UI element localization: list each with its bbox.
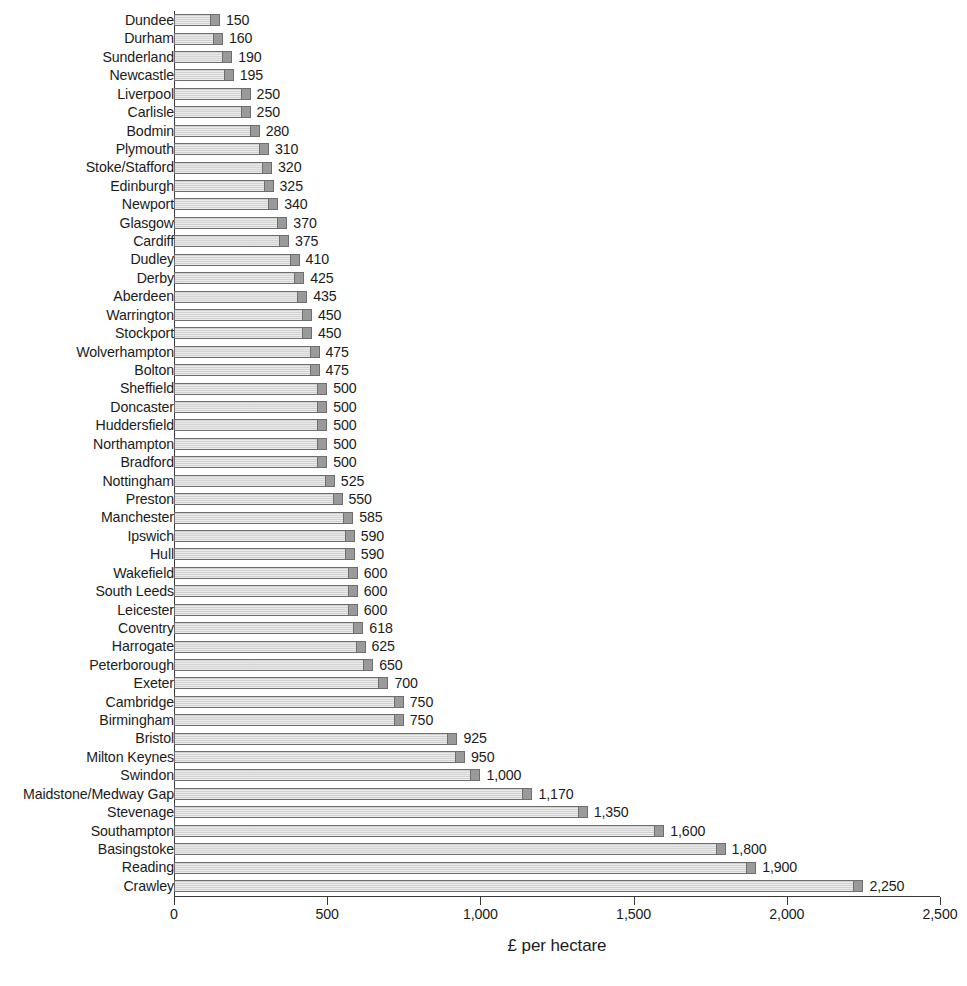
bar-row: Coventry618 [0,619,967,637]
bar [174,180,274,192]
bar [174,677,388,689]
x-axis-tick [634,897,635,905]
bar-track [174,493,343,505]
bar-row: Carlisle250 [0,103,967,121]
bar-end-cap [241,89,250,99]
bar-track [174,604,358,616]
category-label: Warrington [106,306,174,324]
bar-value-label: 1,350 [594,803,629,821]
category-label: Huddersfield [96,416,174,434]
bar-value-label: 590 [361,527,384,545]
bar-row: Derby425 [0,269,967,287]
bar-value-label: 410 [306,250,329,268]
bar-value-label: 320 [278,158,301,176]
bar-row: Nottingham525 [0,472,967,490]
bar-value-label: 1,900 [762,858,797,876]
bar-end-cap [716,844,725,854]
x-axis-tick [480,897,481,905]
bar-track [174,880,863,892]
bar-rows: Dundee150Durham160Sunderland190Newcastle… [0,11,967,895]
category-label: Dudley [130,250,174,268]
bar [174,198,278,210]
bar-row: Bodmin280 [0,122,967,140]
bar-track [174,14,220,26]
bar-value-label: 500 [333,398,356,416]
category-label: Newcastle [109,66,174,84]
bar [174,512,353,524]
bar-end-cap [259,144,268,154]
category-label: Harrogate [112,637,174,655]
category-label: Cambridge [106,693,175,711]
bar-value-label: 195 [240,66,263,84]
bar-value-label: 600 [364,601,387,619]
bar-row: Southampton1,600 [0,822,967,840]
category-label: Preston [126,490,174,508]
bar-end-cap [277,218,286,228]
bar-value-label: 310 [275,140,298,158]
bar-row: Hull590 [0,545,967,563]
bar [174,383,327,395]
bar [174,33,223,45]
bar [174,751,465,763]
bar-end-cap [268,199,277,209]
bar [174,401,327,413]
bar [174,327,312,339]
bar-row: Reading1,900 [0,858,967,876]
category-label: Leicester [117,601,174,619]
bar-track [174,69,234,81]
bar-row: Stockport450 [0,324,967,342]
bar-end-cap [222,52,231,62]
bar-row: Newcastle195 [0,66,967,84]
bar-value-label: 500 [333,416,356,434]
bar-end-cap [325,476,334,486]
bar-end-cap [345,531,354,541]
bar-end-cap [455,752,464,762]
x-axis-title: £ per hectare [174,936,940,956]
category-label: Southampton [91,822,174,840]
bar [174,585,358,597]
bar-track [174,512,353,524]
bar-end-cap [250,126,259,136]
bar-end-cap [353,623,362,633]
category-label: Bradford [120,453,174,471]
bar-end-cap [241,107,250,117]
category-label: Stevenage [107,803,174,821]
bar-value-label: 700 [394,674,417,692]
bar-value-label: 1,000 [486,766,521,784]
bar [174,143,269,155]
bar-track [174,567,358,579]
bar [174,14,220,26]
bar-end-cap [302,310,311,320]
bar-track [174,383,327,395]
x-axis-tick [787,897,788,905]
bar-row: Aberdeen435 [0,287,967,305]
bar [174,51,232,63]
bar-end-cap [279,236,288,246]
category-label: Edinburgh [110,177,174,195]
bar-end-cap [343,513,352,523]
bar-row: Harrogate625 [0,637,967,655]
bar-end-cap [378,678,387,688]
bar-end-cap [317,384,326,394]
bar-value-label: 1,170 [538,785,573,803]
bar-row: Stoke/Stafford320 [0,158,967,176]
category-label: Liverpool [117,85,174,103]
bar-track [174,862,756,874]
bar-value-label: 585 [359,508,382,526]
bar-track [174,346,320,358]
bar-row: Warrington450 [0,306,967,324]
bar-track [174,51,232,63]
category-label: Ipswich [127,527,174,545]
x-axis-tick [940,897,941,905]
bar [174,88,251,100]
bar-row: Sunderland190 [0,48,967,66]
bar-end-cap [348,605,357,615]
bar-row: Cambridge750 [0,693,967,711]
bar-track [174,235,289,247]
bar-row: Stevenage1,350 [0,803,967,821]
bar-end-cap [317,402,326,412]
bar-end-cap [356,642,365,652]
category-label: Doncaster [110,398,174,416]
bar-track [174,401,327,413]
bar [174,604,358,616]
